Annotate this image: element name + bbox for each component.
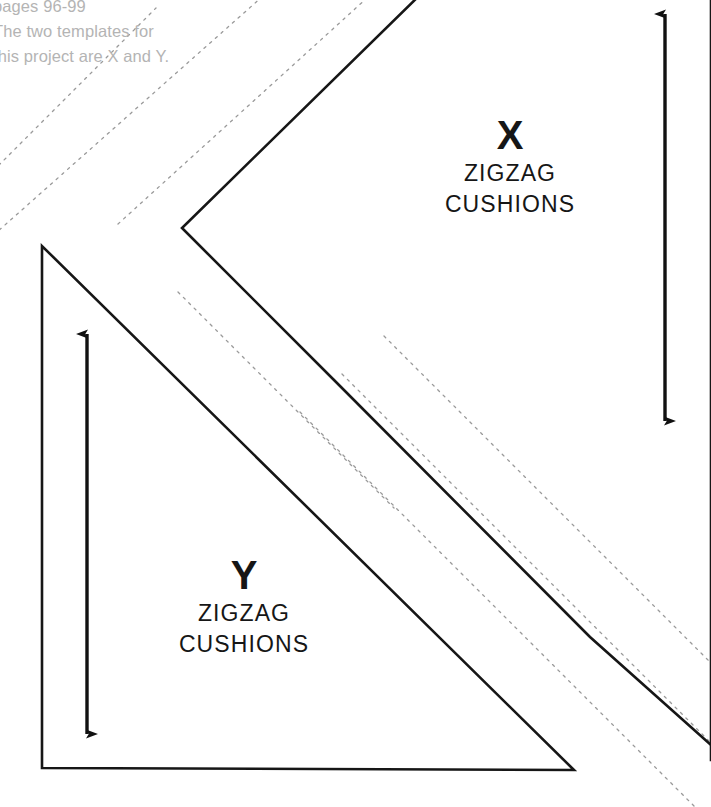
guide-line bbox=[118, 0, 378, 224]
template-artwork bbox=[0, 0, 711, 807]
template-sheet: pages 96-99 The two templates for this p… bbox=[0, 0, 711, 807]
guide-line bbox=[300, 412, 711, 807]
guide-line bbox=[178, 292, 394, 508]
guide-line bbox=[0, 0, 272, 240]
template-y-outline bbox=[42, 246, 574, 770]
guide-line bbox=[384, 336, 711, 663]
guide-line bbox=[342, 374, 711, 743]
guide-line bbox=[0, 8, 156, 176]
guide-lines-group bbox=[0, 0, 711, 807]
